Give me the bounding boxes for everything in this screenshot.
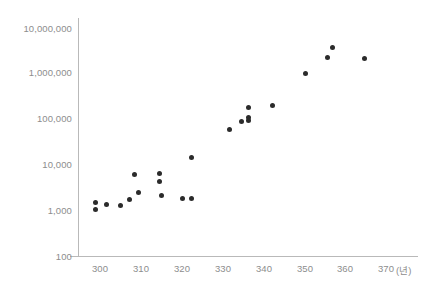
data-point	[132, 172, 137, 177]
x-tick-label: 300	[80, 263, 120, 274]
x-tick-label: 330	[203, 263, 243, 274]
data-point	[239, 119, 244, 124]
x-tick-label: 360	[325, 263, 365, 274]
data-point	[325, 55, 330, 60]
data-point	[270, 103, 275, 108]
x-axis-line	[70, 256, 418, 257]
data-point	[127, 197, 132, 202]
data-point	[93, 207, 98, 212]
scatter-chart: 10,000,000 1,000,000 100,000 10,000 1,00…	[0, 0, 436, 295]
data-point	[303, 71, 308, 76]
y-tick-label: 1,000,000	[6, 67, 72, 78]
data-point	[157, 179, 162, 184]
data-point	[104, 202, 109, 207]
data-point	[362, 56, 367, 61]
y-tick-label: 1,000	[6, 205, 72, 216]
data-point	[118, 203, 123, 208]
data-point	[93, 200, 98, 205]
data-point	[246, 105, 251, 110]
y-axis-line	[78, 18, 79, 257]
data-point	[189, 155, 194, 160]
x-tick-label: 310	[121, 263, 161, 274]
x-tick-label: 320	[162, 263, 202, 274]
y-tick-label: 100,000	[6, 113, 72, 124]
data-point	[246, 118, 251, 123]
y-tick-label: 100	[6, 251, 72, 262]
x-tick-label: 350	[285, 263, 325, 274]
data-point	[330, 45, 335, 50]
data-point	[157, 171, 162, 176]
y-tick-label: 10,000,000	[6, 23, 72, 34]
data-point	[227, 127, 232, 132]
y-axis-tick-labels: 10,000,000 1,000,000 100,000 10,000 1,00…	[4, 0, 72, 295]
data-point	[180, 196, 185, 201]
data-point	[189, 196, 194, 201]
data-point	[136, 190, 141, 195]
x-tick-label: 340	[244, 263, 284, 274]
data-point	[159, 193, 164, 198]
x-axis-unit-label: (년)	[396, 263, 411, 277]
y-tick-label: 10,000	[6, 159, 72, 170]
